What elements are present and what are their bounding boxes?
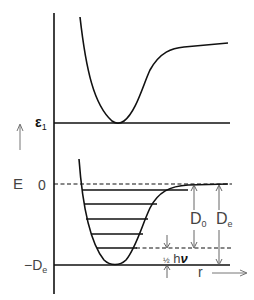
potential-energy-diagram bbox=[0, 0, 254, 300]
zero-point-energy-label: ½ hν bbox=[163, 252, 188, 265]
zero-level-label: 0 bbox=[38, 178, 46, 192]
d0-label: D0 bbox=[190, 210, 207, 230]
de-label: De bbox=[216, 210, 233, 230]
minus-de-label: −De bbox=[24, 258, 47, 275]
r-axis-label: r bbox=[198, 265, 203, 279]
upper-potential-curve bbox=[80, 17, 228, 123]
epsilon1-label: ε1 bbox=[35, 115, 47, 132]
energy-axis-label: E bbox=[13, 176, 23, 191]
